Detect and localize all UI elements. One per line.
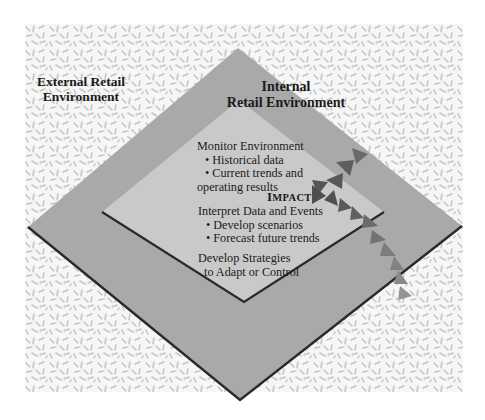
monitor-heading: Monitor Environment bbox=[197, 140, 304, 154]
external-label-line1: External Retail bbox=[32, 74, 130, 89]
internal-label-line1: Internal bbox=[216, 79, 356, 95]
develop-line1: Develop Strategies bbox=[198, 252, 299, 266]
interpret-bullet: • Develop scenarios bbox=[198, 219, 323, 233]
internal-label-line2: Retail Environment bbox=[216, 95, 356, 111]
external-label-line2: Environment bbox=[32, 89, 130, 104]
monitor-bullet: • Current trends and bbox=[197, 167, 304, 181]
interpret-data-block: Interpret Data and Events • Develop scen… bbox=[198, 205, 323, 246]
interpret-bullet: • Forecast future trends bbox=[198, 232, 323, 246]
interpret-heading: Interpret Data and Events bbox=[198, 205, 323, 219]
monitor-bullet: • Historical data bbox=[197, 154, 304, 168]
develop-line2: to Adapt or Control bbox=[198, 266, 299, 280]
internal-environment-label: Internal Retail Environment bbox=[216, 79, 356, 110]
impact-label: IMPACT bbox=[267, 190, 312, 205]
monitor-environment-block: Monitor Environment • Historical data • … bbox=[197, 140, 304, 195]
impact-label-rest: MPACT bbox=[272, 192, 311, 203]
diagram-canvas: External Retail Environment Internal Ret… bbox=[0, 0, 485, 420]
develop-strategies-block: Develop Strategies to Adapt or Control bbox=[198, 252, 299, 279]
external-environment-label: External Retail Environment bbox=[32, 74, 130, 104]
